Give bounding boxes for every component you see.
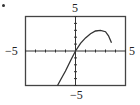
- graph-plot: [0, 0, 140, 105]
- function-curve: [58, 30, 112, 85]
